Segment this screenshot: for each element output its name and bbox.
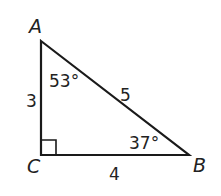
- side-label-cb: 4: [109, 164, 120, 184]
- triangle-abc: [41, 41, 189, 155]
- triangle-diagram: A C B 3 4 5 53° 37°: [0, 0, 221, 196]
- vertex-label-b: B: [193, 154, 206, 176]
- right-angle-marker: [41, 140, 56, 155]
- side-label-ac: 3: [26, 91, 37, 111]
- angle-label-b: 37°: [129, 133, 159, 153]
- vertex-label-a: A: [27, 15, 42, 37]
- angle-label-a: 53°: [49, 71, 79, 91]
- side-label-ab: 5: [120, 85, 131, 105]
- vertex-label-c: C: [27, 155, 41, 177]
